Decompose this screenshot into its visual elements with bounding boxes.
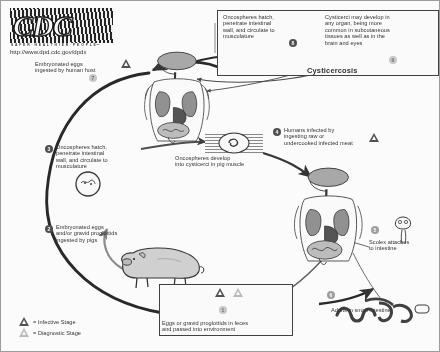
human-anatomy-figure-right bbox=[294, 168, 362, 264]
step-9-marker: 9 bbox=[389, 56, 397, 64]
pig-illustration bbox=[122, 248, 204, 288]
step-1-label: Eggs or gravid proglottids in feces and … bbox=[162, 320, 292, 333]
step-4-label: Humans infected by ingesting raw or unde… bbox=[284, 127, 396, 146]
oncosphere-icon-left bbox=[76, 172, 100, 196]
diagnostic-stage-triangle-icon-step1 bbox=[233, 288, 243, 297]
step-3-marker: 3 bbox=[45, 145, 53, 153]
step-2-label: Embryonated eggs and/or gravid proglotti… bbox=[56, 224, 156, 243]
step-9-label: Cysticerci may develop in any organ, bei… bbox=[325, 14, 433, 46]
step-5-label: Scolex attaches to intestine bbox=[369, 239, 440, 252]
infective-stage-triangle-icon-step4 bbox=[369, 133, 379, 142]
cdc-life-cycle-diagram: CDC S A F E R · H E A L T H I E R · P E … bbox=[0, 0, 440, 352]
step-5-marker: 5 bbox=[371, 226, 379, 234]
step-8-label: Oncospheres hatch, penetrate intestinal … bbox=[223, 14, 319, 40]
center-note-label: Oncospheres develop into cysticerci in p… bbox=[175, 155, 289, 168]
human-anatomy-figure-left bbox=[145, 52, 210, 143]
step-7-marker: 7 bbox=[89, 74, 97, 82]
legend-diagnostic-label: = Diagnostic Stage bbox=[33, 330, 81, 336]
step-1-marker: 1 bbox=[219, 306, 227, 314]
step-6-label: Adults in small intestine bbox=[331, 307, 439, 313]
step-6-marker: 6 bbox=[327, 291, 335, 299]
legend-infective-triangle-icon bbox=[19, 317, 29, 326]
step-2-marker: 2 bbox=[45, 225, 53, 233]
infective-stage-triangle-icon-step1 bbox=[215, 288, 225, 297]
pig-muscle-cysticercus-icon bbox=[205, 132, 263, 154]
step-3-label: Oncospheres hatch, penetrate intestinal … bbox=[56, 144, 142, 170]
infective-stage-triangle-icon-step7 bbox=[121, 59, 131, 68]
step-4-marker: 4 bbox=[273, 128, 281, 136]
step-8-marker: 8 bbox=[289, 39, 297, 47]
legend-diagnostic-triangle-icon bbox=[19, 328, 29, 337]
cysticercosis-title: Cysticercosis bbox=[307, 67, 358, 76]
legend-infective-label: = Infective Stage bbox=[33, 319, 76, 325]
